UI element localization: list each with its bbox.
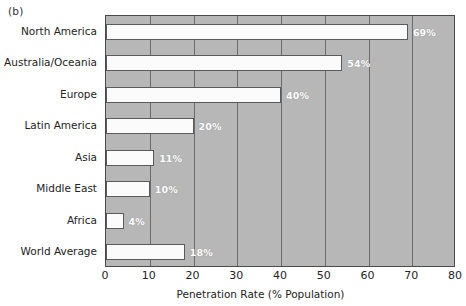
plot-area: 69%54%40%20%11%10%4%18%: [105, 15, 455, 267]
bar-row: 20%: [106, 118, 456, 134]
bar-value-label: 18%: [190, 247, 213, 258]
bar-row: 4%: [106, 213, 456, 229]
bar-value-label: 40%: [286, 89, 309, 100]
bar-row: 11%: [106, 150, 456, 166]
y-axis-category-labels: North AmericaAustralia/OceaniaEuropeLati…: [0, 15, 101, 267]
bar: [106, 213, 124, 229]
y-axis-label: Asia: [75, 151, 97, 163]
bar-value-label: 11%: [159, 152, 182, 163]
x-axis-tick: 50: [317, 269, 331, 282]
y-axis-label: North America: [21, 25, 97, 37]
x-axis-tick-labels: 01020304050607080: [105, 269, 455, 285]
y-axis-label: Africa: [67, 214, 97, 226]
bar: [106, 150, 154, 166]
bar: [106, 87, 281, 103]
x-axis-tick: 80: [448, 269, 462, 282]
figure-panel-b: (b) 69%54%40%20%11%10%4%18% North Americ…: [0, 0, 466, 306]
bar: [106, 24, 408, 40]
bar-row: 40%: [106, 87, 456, 103]
y-axis-label: Europe: [60, 88, 97, 100]
x-axis-title: Penetration Rate (% Population): [0, 288, 466, 300]
bar-value-label: 10%: [155, 184, 178, 195]
bar-value-label: 20%: [199, 121, 222, 132]
bar-value-label: 54%: [347, 58, 370, 69]
y-axis-label: Middle East: [36, 182, 97, 194]
x-axis-tick: 60: [361, 269, 375, 282]
bar-value-label: 69%: [413, 26, 436, 37]
x-axis-tick: 40: [273, 269, 287, 282]
x-axis-tick: 20: [186, 269, 200, 282]
bar-row: 54%: [106, 55, 456, 71]
y-axis-label: Australia/Oceania: [4, 56, 97, 68]
bar: [106, 118, 194, 134]
bar-row: 18%: [106, 244, 456, 260]
bar: [106, 55, 342, 71]
x-axis-tick: 70: [404, 269, 418, 282]
x-axis-tick: 10: [142, 269, 156, 282]
bar-row: 69%: [106, 24, 456, 40]
bar-row: 10%: [106, 181, 456, 197]
bar: [106, 244, 185, 260]
bar: [106, 181, 150, 197]
x-axis-tick: 30: [229, 269, 243, 282]
bar-value-label: 4%: [129, 215, 145, 226]
x-axis-tick: 0: [102, 269, 109, 282]
y-axis-label: World Average: [20, 245, 97, 257]
y-axis-label: Latin America: [24, 119, 97, 131]
